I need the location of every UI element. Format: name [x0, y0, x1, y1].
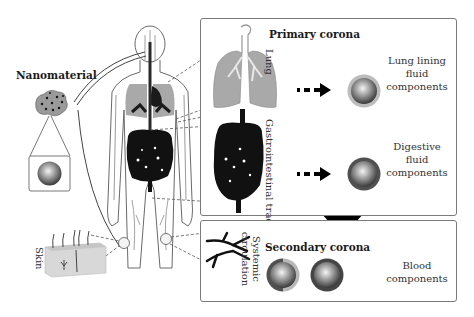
primary-corona-panel: Primary corona Lung Gastrointestinal tra…: [200, 18, 457, 216]
mixed-secondary-corona-particle-icon: [265, 257, 301, 293]
gi-tract-label: Gastrointestinal tract: [264, 119, 275, 228]
zoom-triangle: [30, 116, 70, 156]
lung-label: Lung: [264, 49, 275, 75]
leg-vessel-point-icon: [161, 234, 172, 245]
gi-dashed-arrow-icon: [297, 166, 337, 182]
blood-components-label: Blood components: [379, 259, 455, 285]
lung-lining-fluid-label: Lung lining fluid components: [379, 54, 455, 93]
lung-corona-particle-icon: [346, 73, 382, 109]
digestive-fluid-label: Digestive fluid components: [379, 140, 455, 179]
secondary-corona-title: Secondary corona: [265, 241, 370, 253]
skin-label: Skin: [34, 247, 45, 270]
skin-block-icon: [45, 230, 106, 277]
single-nanoparticle-icon: [38, 162, 62, 186]
digestive-corona-particle-icon: [346, 156, 382, 192]
skin-contact-point-icon: [119, 238, 130, 249]
lung-dashed-arrow-icon: [297, 82, 337, 98]
secondary-corona-panel: Systemic circulation Secondary corona Bl…: [200, 220, 457, 302]
nanomaterial-label: Nanomaterial: [16, 69, 97, 81]
systemic-circulation-label: Systemic circulation: [240, 231, 262, 287]
skin-exposure-line: [78, 110, 120, 247]
nanomaterial-cluster-icon: [36, 90, 68, 115]
body-gi-tract-icon: [127, 130, 174, 192]
blood-corona-particle-icon: [309, 257, 345, 293]
